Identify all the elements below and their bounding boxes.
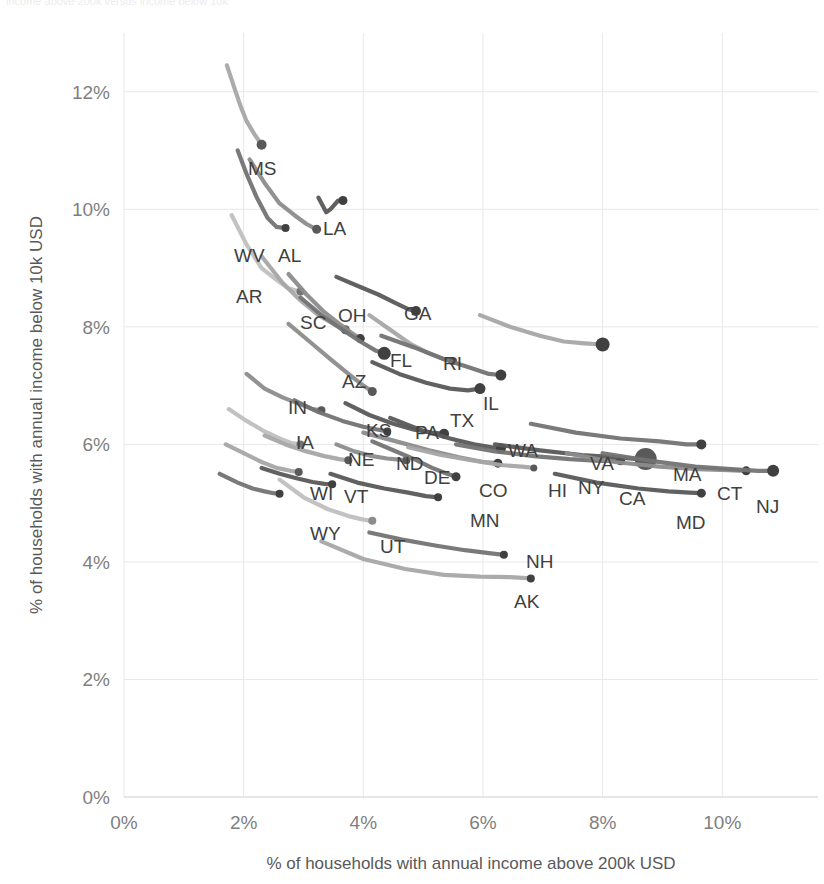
series-endpoint-AK[interactable] — [527, 574, 535, 582]
y-tick-label: 0% — [83, 787, 111, 808]
series-line-AK — [321, 541, 530, 578]
state-label-MA: MA — [673, 464, 702, 485]
series-NY — [480, 315, 610, 351]
state-label-LA: LA — [323, 218, 347, 239]
series-endpoint-UT[interactable] — [368, 517, 376, 525]
chart-container: income above 200k versus income below 10… — [0, 0, 824, 884]
state-label-OH: OH — [338, 305, 367, 326]
state-label-RI: RI — [443, 353, 462, 374]
series-endpoint-WY[interactable] — [276, 490, 284, 498]
state-label-NH: NH — [526, 551, 553, 572]
series-line-WY — [220, 474, 280, 494]
state-label-NE: NE — [348, 449, 374, 470]
state-label-KS: KS — [366, 420, 391, 441]
x-tick-label: 6% — [469, 812, 497, 833]
y-tick-label: 2% — [83, 669, 111, 690]
state-label-NJ: NJ — [756, 496, 779, 517]
state-label-HI: HI — [548, 480, 567, 501]
series-endpoint-WI[interactable] — [295, 468, 303, 476]
state-label-CT: CT — [717, 483, 743, 504]
scatter-line-plot: 0%2%4%6%8%10%12%0%2%4%6%8%10%% of househ… — [0, 0, 824, 884]
state-label-TX: TX — [450, 410, 475, 431]
state-label-IL: IL — [483, 393, 499, 414]
x-tick-label: 2% — [230, 812, 258, 833]
state-label-MD: MD — [676, 512, 706, 533]
state-label-CA: CA — [619, 488, 646, 509]
series-endpoint-MA[interactable] — [696, 439, 706, 449]
state-label-VT: VT — [344, 486, 369, 507]
series-WI — [226, 444, 303, 476]
state-label-PA: PA — [415, 422, 439, 443]
state-label-IN: IN — [288, 397, 307, 418]
series-endpoint-AZ[interactable] — [368, 387, 377, 396]
series-endpoint-IL[interactable] — [495, 370, 506, 381]
y-tick-label: 8% — [83, 317, 111, 338]
series-line-MS — [227, 65, 262, 144]
state-label-VA: VA — [590, 453, 614, 474]
state-label-ND: ND — [396, 453, 423, 474]
series-WY — [220, 474, 284, 498]
state-label-GA: GA — [404, 303, 432, 324]
series-endpoint-NJ[interactable] — [767, 465, 779, 477]
series-endpoint-WV[interactable] — [282, 224, 290, 232]
state-label-MN: MN — [470, 510, 500, 531]
x-tick-label: 0% — [110, 812, 138, 833]
state-label-WV: WV — [234, 245, 265, 266]
state-label-SC: SC — [300, 312, 326, 333]
series-MA — [531, 424, 707, 450]
state-label-CO: CO — [479, 480, 508, 501]
state-label-WY: WY — [310, 523, 341, 544]
y-tick-label: 10% — [72, 199, 110, 220]
state-label-AL: AL — [278, 245, 301, 266]
series-line-IN — [247, 374, 322, 410]
series-endpoint-MD[interactable] — [697, 489, 706, 498]
state-label-UT: UT — [380, 536, 406, 557]
state-label-NY: NY — [578, 477, 605, 498]
x-axis-title: % of households with annual income above… — [266, 854, 675, 873]
state-label-WI: WI — [310, 483, 333, 504]
state-label-MS: MS — [248, 158, 277, 179]
state-label-WA: WA — [508, 440, 538, 461]
state-label-FL: FL — [390, 350, 412, 371]
series-endpoint-DE[interactable] — [452, 472, 461, 481]
series-endpoint-NY[interactable] — [596, 337, 610, 351]
y-tick-label: 4% — [83, 552, 111, 573]
state-label-AZ: AZ — [342, 371, 367, 392]
series-endpoint-NH[interactable] — [500, 551, 508, 559]
series-endpoint-MN[interactable] — [434, 493, 442, 501]
x-tick-label: 10% — [703, 812, 741, 833]
state-label-DE: DE — [424, 467, 450, 488]
series-endpoint-AL[interactable] — [312, 225, 321, 234]
x-tick-label: 4% — [350, 812, 378, 833]
y-axis-title: % of households with annual income below… — [27, 216, 46, 614]
y-tick-label: 6% — [83, 434, 111, 455]
series-endpoint-FL[interactable] — [378, 347, 391, 360]
state-label-AR: AR — [236, 286, 262, 307]
series-line-NY — [480, 315, 603, 344]
series-endpoint-HI[interactable] — [530, 464, 537, 471]
state-label-AK: AK — [514, 591, 540, 612]
series-endpoint-LA[interactable] — [338, 196, 347, 205]
series-endpoint-MS[interactable] — [257, 140, 267, 150]
state-label-IA: IA — [296, 432, 314, 453]
x-tick-label: 8% — [589, 812, 617, 833]
series-line-MA — [531, 424, 702, 445]
y-tick-label: 12% — [72, 82, 110, 103]
series-MS — [227, 65, 267, 149]
